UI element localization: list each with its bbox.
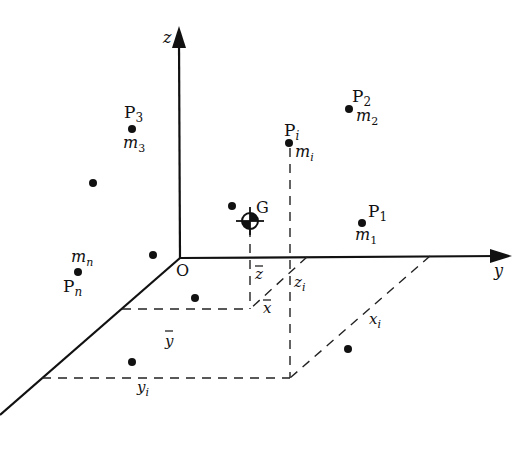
label-y-bar: y	[164, 331, 174, 350]
label-z-i: zi	[293, 273, 305, 294]
svg-text:P3: P3	[124, 102, 143, 125]
point-unlabeled	[149, 251, 157, 259]
svg-text:z: z	[254, 265, 263, 283]
point-p3	[128, 125, 136, 133]
svg-text:mn: mn	[71, 247, 93, 269]
svg-text:Pn: Pn	[63, 276, 82, 299]
label-x-bar: x	[263, 299, 272, 317]
point-pn	[74, 268, 82, 276]
point-unlabeled	[128, 358, 136, 366]
construction-lines	[42, 148, 430, 378]
z-axis-arrow-icon	[172, 26, 186, 48]
y-axis-label: y	[493, 261, 504, 280]
point-unlabeled	[228, 202, 236, 210]
label-p2: P2 m2	[352, 86, 378, 128]
svg-text:y: y	[164, 332, 174, 350]
point-unlabeled	[344, 345, 352, 353]
point-unlabeled	[191, 294, 199, 302]
svg-text:xi: xi	[369, 310, 381, 331]
z-axis-label: z	[162, 28, 172, 47]
label-y-i: yi	[136, 378, 149, 399]
svg-text:m3: m3	[123, 133, 145, 155]
origin-label: O	[176, 261, 189, 280]
svg-text:P1: P1	[368, 201, 387, 224]
label-z-bar: z	[254, 265, 263, 283]
point-unlabeled	[89, 179, 97, 187]
center-of-mass-diagram: z y O G P3 m3 P2 m2 Pi mi P1 m1 mn Pn z …	[0, 0, 530, 451]
y-axis	[180, 249, 512, 263]
svg-text:x: x	[263, 299, 272, 317]
point-masses	[74, 105, 366, 366]
x-axis	[0, 258, 180, 415]
svg-text:mi: mi	[295, 142, 314, 164]
point-p2	[345, 105, 353, 113]
svg-text:zi: zi	[293, 273, 305, 294]
z-axis	[172, 26, 186, 258]
svg-text:m2: m2	[356, 106, 378, 128]
label-x-i: xi	[369, 310, 381, 331]
svg-text:m1: m1	[355, 225, 377, 247]
center-of-mass-label: G	[256, 198, 269, 217]
svg-text:Pi: Pi	[284, 120, 299, 143]
point-pi	[285, 139, 293, 147]
svg-text:yi: yi	[136, 378, 149, 399]
